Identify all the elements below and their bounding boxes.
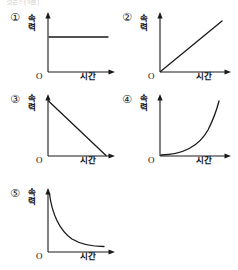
- option-5-x-axis-arrow: [109, 249, 116, 254]
- option-2-y-axis-label: 속 력: [139, 14, 149, 32]
- option-1-x-axis-label: 시간: [80, 72, 96, 81]
- option-3-curve: [49, 101, 107, 156]
- option-2-origin-label: O: [148, 72, 155, 81]
- option-2-y-label-char2: 력: [139, 23, 149, 32]
- option-1-plot: [38, 10, 120, 78]
- option-1-origin-label: O: [36, 72, 43, 81]
- option-2-curve: [161, 21, 223, 72]
- option-3-y-axis-label: 속 력: [27, 94, 37, 112]
- option-1-graph: [38, 10, 120, 78]
- option-3-y-axis-arrow: [45, 94, 50, 101]
- option-2-y-axis-arrow: [157, 12, 162, 19]
- option-1-x-axis-arrow: [109, 69, 116, 74]
- option-3-y-label-char2: 력: [27, 103, 37, 112]
- option-1-y-axis-label: 속 력: [27, 14, 37, 32]
- cutoff-header-text: 것은? [3점]: [6, 0, 126, 6]
- option-5-graph: [38, 186, 120, 262]
- option-3-plot: [38, 92, 120, 164]
- option-2-graph: [150, 10, 238, 78]
- option-4-graph: [150, 92, 238, 164]
- option-4-y-axis-label: 속 력: [139, 94, 149, 112]
- option-4-origin-label: O: [148, 156, 155, 165]
- option-2-x-axis-label: 시간: [196, 72, 212, 81]
- option-2-x-axis-arrow: [225, 69, 232, 74]
- option-4-curve: [161, 101, 219, 155]
- option-3-x-axis-arrow: [109, 153, 116, 158]
- option-1-number: ①: [10, 12, 20, 23]
- option-4-x-axis-arrow: [225, 153, 232, 158]
- option-3-x-axis-label: 시간: [80, 156, 96, 165]
- option-5-y-label-char2: 력: [27, 197, 37, 206]
- option-3-number: ③: [10, 94, 20, 105]
- option-5-origin-label: O: [36, 252, 43, 261]
- option-1-y-label-char2: 력: [27, 23, 37, 32]
- option-4-x-axis-label: 시간: [196, 156, 212, 165]
- option-1-y-axis-arrow: [45, 12, 50, 19]
- option-4-y-axis-arrow: [157, 94, 162, 101]
- option-4-number: ④: [122, 94, 132, 105]
- option-5-y-axis-label: 속 력: [27, 188, 37, 206]
- option-3-origin-label: O: [36, 156, 43, 165]
- question-options-figure: 것은? [3점] ① 속 력 O 시간 ② 속 력: [0, 0, 238, 270]
- option-5-curve: [50, 194, 105, 247]
- option-5-number: ⑤: [10, 188, 20, 199]
- option-2-number: ②: [122, 12, 132, 23]
- option-5-plot: [38, 186, 120, 262]
- option-4-plot: [150, 92, 238, 164]
- option-4-y-label-char2: 력: [139, 103, 149, 112]
- option-3-graph: [38, 92, 120, 164]
- option-5-x-axis-label: 시간: [80, 252, 96, 261]
- option-2-plot: [150, 10, 238, 78]
